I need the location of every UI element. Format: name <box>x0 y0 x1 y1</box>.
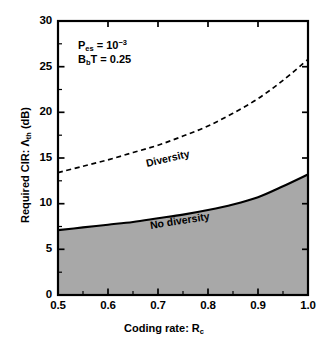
annotation-bbt-base: B <box>78 53 86 65</box>
x-axis-title: Coding rate: Rc <box>0 322 328 336</box>
annotation-pes-equals: = 10 <box>94 39 119 51</box>
y-axis-title: Required CIR: Λth (dB) <box>19 75 33 255</box>
annotation-pes-subscript: es <box>85 44 93 53</box>
x-axis-title-symbol: R <box>192 322 200 334</box>
annotation-bbt-equals: T = 0.25 <box>91 53 132 65</box>
y-axis-title-unit: (dB) <box>19 107 31 132</box>
annotation-pes: Pes = 10−3 <box>78 38 127 53</box>
x-tick-label-0-9: 0.9 <box>241 299 275 311</box>
x-tick-label-0-5: 0.5 <box>41 299 75 311</box>
x-tick-label-0-6: 0.6 <box>91 299 125 311</box>
x-axis-title-main: Coding rate: <box>124 322 192 334</box>
annotation-pes-exponent: −3 <box>118 38 127 47</box>
x-tick-label-0-7: 0.7 <box>141 299 175 311</box>
x-axis-title-subscript: c <box>200 327 204 336</box>
y-axis-title-subscript: th <box>24 132 33 139</box>
y-tick-label-25: 25 <box>26 60 52 72</box>
y-axis-title-symbol: Λ <box>19 139 31 146</box>
x-tick-label-1-0: 1.0 <box>291 299 325 311</box>
chart-figure: 0 5 10 15 20 25 30 0.5 0.6 0.7 0.8 0.9 1… <box>0 0 328 343</box>
annotation-bbt: BbT = 0.25 <box>78 53 131 67</box>
y-axis-title-main: Required CIR: <box>19 147 31 223</box>
y-tick-label-30: 30 <box>26 14 52 26</box>
x-tick-label-0-8: 0.8 <box>191 299 225 311</box>
